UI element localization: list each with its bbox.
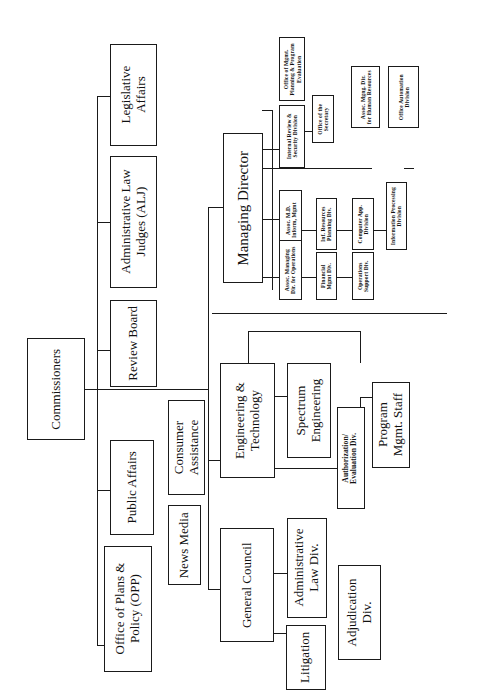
node-engineering-technology[interactable]: Engineering & Technology xyxy=(220,363,275,478)
node-financial-mgmt-label: Financial Mgmt Div. xyxy=(320,263,333,289)
connector-info-chain-2 xyxy=(336,230,352,231)
node-assoc-md-hr[interactable]: Assoc. Mgng. Dir. for Human Resources xyxy=(351,66,380,128)
node-financial-mgmt[interactable]: Financial Mgmt Div. xyxy=(316,252,337,300)
connector-stub-general-council xyxy=(208,589,220,590)
node-computer-app-label: Computer App. Division xyxy=(357,205,370,244)
node-assoc-md-hr-label: Assoc. Mgng. Dir. for Human Resources xyxy=(359,70,372,124)
connector-info-chain-3 xyxy=(373,230,386,231)
node-spectrum-engineering-label: Spectrum Engineering xyxy=(294,379,323,443)
node-review-board[interactable]: Review Board xyxy=(110,300,157,387)
node-general-council-label: General Council xyxy=(240,542,255,628)
connector-commissioners-spine xyxy=(97,389,209,390)
connector-gc-to-litigation xyxy=(274,633,286,634)
node-office-secretary-label: Office of the Secretary xyxy=(317,104,330,135)
node-spectrum-engineering[interactable]: Spectrum Engineering xyxy=(287,363,331,458)
connector-md-to-hr xyxy=(262,168,372,169)
node-litigation-label: Litigation xyxy=(299,632,314,683)
node-opp-label: Office of Plans & Policy (OPP) xyxy=(113,563,142,655)
node-assoc-md-ops-label: Assoc. Managing Dir. for Operations xyxy=(284,246,297,293)
node-information-processing[interactable]: Information Processing Division xyxy=(386,182,407,250)
connector-md-to-ops xyxy=(262,277,279,278)
connector-md-to-planning xyxy=(262,110,272,111)
connector-md-children-trunk xyxy=(272,110,273,290)
node-commissioners[interactable]: Commissioners xyxy=(27,338,85,440)
connector-md-to-internal-review xyxy=(262,149,279,150)
node-assoc-md-ops[interactable]: Assoc. Managing Dir. for Operations xyxy=(279,240,302,300)
node-managing-director[interactable]: Managing Director xyxy=(223,133,263,283)
node-program-mgmt-staff[interactable]: Program Mgmt. Staff xyxy=(372,382,410,468)
separator-rule xyxy=(212,313,447,314)
connector-program-staff xyxy=(360,397,372,398)
node-public-affairs-label: Public Affairs xyxy=(125,451,140,523)
node-authorization-eval[interactable]: Authorization/ Evaluation Div. xyxy=(337,407,365,509)
connector-et-riser-top xyxy=(248,331,360,332)
node-operations-support-label: Operations Support Div. xyxy=(357,260,370,292)
connector-gc-to-admin-law xyxy=(274,573,287,574)
node-alj[interactable]: Administrative Law Judges (ALJ) xyxy=(110,156,157,288)
node-news-media[interactable]: News Media xyxy=(168,505,201,585)
node-litigation[interactable]: Litigation xyxy=(286,625,326,690)
node-admin-law-div-label: Administrative Law Div. xyxy=(292,529,321,607)
node-office-mgmt-planning-label: Office of Mgmt. Planning & Program Evalu… xyxy=(283,43,302,95)
node-office-automation-label: Office Automation Division xyxy=(397,74,410,120)
node-assoc-md-info-label: Assoc. M.D. Inform, Mgmt xyxy=(284,202,297,238)
node-adjudication-div[interactable]: Adjudication Div. xyxy=(338,565,381,660)
connector-stub-managing-director xyxy=(208,207,223,208)
node-general-council[interactable]: General Council xyxy=(220,528,274,642)
connector-main-trunk xyxy=(97,96,98,646)
node-information-processing-label: Information Processing Division xyxy=(390,187,403,245)
node-inf-resources[interactable]: Inf. Resources Planning Div. xyxy=(316,198,337,250)
node-consumer-assistance[interactable]: Consumer Assistance xyxy=(168,400,205,495)
node-authorization-eval-label: Authorization/ Evaluation Div. xyxy=(343,432,360,483)
connector-md-bottom-riser xyxy=(272,277,273,290)
node-opp[interactable]: Office of Plans & Policy (OPP) xyxy=(104,546,152,672)
node-review-board-label: Review Board xyxy=(126,306,141,381)
connector-right-trunk xyxy=(208,207,209,589)
connector-stub-engineering xyxy=(208,460,220,461)
node-internal-review-label: Internal Review & Security Division xyxy=(286,113,299,159)
node-news-media-label: News Media xyxy=(177,512,192,578)
node-consumer-assistance-label: Consumer Assistance xyxy=(172,420,201,476)
connector-et-spectrum-riser xyxy=(360,331,361,363)
node-office-secretary[interactable]: Office of the Secretary xyxy=(312,95,334,143)
connector-ops-chain-1 xyxy=(300,277,316,278)
node-alj-label: Administrative Law Judges (ALJ) xyxy=(119,170,148,274)
node-legislative-affairs-label: Legislative Affairs xyxy=(119,66,148,124)
node-managing-director-label: Managing Director xyxy=(235,151,252,266)
node-computer-app[interactable]: Computer App. Division xyxy=(352,198,374,250)
org-chart-page: Commissioners Legislative Affairs Admini… xyxy=(0,0,477,694)
node-operations-support[interactable]: Operations Support Div. xyxy=(352,252,374,300)
connector-et-to-spectrum xyxy=(275,396,287,397)
connector-hr-automation xyxy=(404,168,414,169)
connector-ops-chain-2 xyxy=(336,277,352,278)
connector-md-to-info xyxy=(262,219,279,220)
node-adjudication-div-label: Adjudication Div. xyxy=(345,579,374,647)
node-admin-law-div[interactable]: Administrative Law Div. xyxy=(287,518,327,618)
node-internal-review[interactable]: Internal Review & Security Division xyxy=(279,105,305,168)
node-commissioners-label: Commissioners xyxy=(49,349,64,430)
node-office-mgmt-planning[interactable]: Office of Mgmt. Planning & Program Evalu… xyxy=(279,37,305,101)
node-program-mgmt-staff-label: Program Mgmt. Staff xyxy=(376,393,405,456)
node-public-affairs[interactable]: Public Affairs xyxy=(110,440,154,535)
node-office-automation[interactable]: Office Automation Division xyxy=(388,66,419,128)
node-legislative-affairs[interactable]: Legislative Affairs xyxy=(110,44,157,146)
node-engineering-technology-label: Engineering & Technology xyxy=(233,382,262,459)
connector-info-chain-1 xyxy=(300,230,316,231)
connector-et-to-auth xyxy=(275,468,337,469)
node-inf-resources-label: Inf. Resources Planning Div. xyxy=(320,206,333,241)
